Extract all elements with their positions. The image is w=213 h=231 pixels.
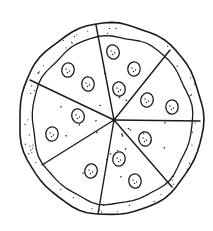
cheese-speck — [126, 100, 128, 102]
pepperoni-dot — [171, 109, 172, 110]
pepperoni-dot — [120, 159, 121, 160]
pepperoni-dot — [116, 157, 117, 158]
cheese-speck — [121, 133, 123, 135]
crust-speck — [38, 72, 39, 73]
pepperoni-outline — [112, 151, 127, 167]
crust-speck — [117, 211, 118, 212]
pepperoni-dot — [69, 70, 70, 71]
crust-speck — [27, 119, 28, 120]
crust-speck — [31, 152, 32, 153]
crust-speck — [29, 145, 30, 146]
crust-speck — [60, 189, 61, 190]
pepperoni-dot — [90, 173, 91, 174]
crust-speck — [33, 145, 34, 146]
crust-speck — [173, 184, 174, 185]
crust-speck — [129, 205, 130, 206]
pepperoni-outline — [127, 61, 140, 76]
pepperoni-outline — [70, 107, 86, 125]
pepperoni-dot — [144, 141, 145, 142]
pepperoni-slice — [166, 100, 179, 115]
pepperoni-outline — [81, 76, 95, 92]
cheese-speck — [65, 135, 67, 137]
pizza-illustration: Hand-drawn line sketch of a whole pizza … — [0, 0, 213, 231]
pepperoni-dot — [169, 105, 170, 106]
crust-speck — [172, 179, 173, 180]
crust-speck — [87, 31, 88, 32]
slice-cut-line — [98, 120, 114, 214]
pepperoni-dot — [136, 181, 137, 182]
pepperoni-dot — [88, 169, 89, 170]
crust-speck — [74, 36, 75, 37]
crust-speck — [32, 147, 33, 148]
pepperoni-dot — [53, 134, 54, 135]
cheese-speck — [99, 105, 101, 107]
crust-speck — [63, 40, 64, 41]
crust-speck — [34, 90, 35, 91]
pepperoni-dot — [134, 183, 135, 184]
pepperoni-dot — [65, 68, 66, 69]
cheese-speck — [120, 176, 122, 178]
pepperoni-outline — [83, 162, 99, 179]
crust-speck — [191, 94, 192, 95]
pepperoni-dot — [67, 72, 68, 73]
pepperoni-slice — [81, 76, 95, 92]
cheese-speck — [164, 122, 166, 124]
pepperoni-dot — [133, 71, 134, 72]
pepperoni-dot — [135, 69, 136, 70]
crust-speck — [29, 134, 30, 135]
crust-speck — [66, 47, 67, 48]
pepperoni-slice — [45, 126, 58, 141]
pepperoni-outline — [45, 126, 58, 141]
cheese-speck — [128, 128, 130, 130]
crust-speck — [24, 124, 25, 125]
cheese-speck — [96, 132, 98, 134]
pepperoni-dot — [92, 171, 93, 172]
cheese-speck — [106, 159, 108, 161]
pepperoni-slice — [83, 162, 99, 179]
pizza-drawing — [0, 0, 213, 231]
crust-speck — [91, 208, 92, 209]
pepperoni-slice — [111, 81, 127, 98]
pepperoni-slice — [112, 151, 127, 167]
cheese-speck — [122, 135, 124, 137]
pepperoni-dot — [116, 87, 117, 88]
crust-speck — [107, 33, 108, 34]
pepperoni-dot — [146, 102, 147, 103]
crust-speck — [190, 77, 191, 78]
crust-speck — [43, 65, 44, 66]
crust-speck — [72, 43, 73, 44]
pepperoni-slice — [61, 62, 75, 78]
pepperoni-outline — [166, 100, 179, 115]
pepperoni-slice — [70, 107, 86, 125]
pepperoni-outline — [105, 43, 122, 61]
pepperoni-dot — [146, 139, 147, 140]
pepperoni-dot — [51, 136, 52, 137]
pepperoni-slice — [127, 61, 140, 76]
pepperoni-slice — [137, 131, 152, 148]
pepperoni-dot — [75, 114, 76, 115]
pepperoni-outline — [128, 173, 142, 189]
crust-speck — [76, 34, 77, 35]
pepperoni-dot — [173, 107, 174, 108]
crust-speck — [189, 163, 190, 164]
crust-speck — [154, 201, 155, 202]
crust-speck — [191, 144, 192, 145]
pepperoni-outline — [61, 62, 75, 78]
pepperoni-outline — [137, 131, 152, 148]
crust-speck — [192, 132, 193, 133]
pepperoni-dot — [132, 179, 133, 180]
pepperoni-dot — [120, 89, 121, 90]
pepperoni-dot — [87, 86, 88, 87]
pepperoni-dot — [79, 116, 80, 117]
crust-speck — [187, 168, 188, 169]
crust-speck — [30, 93, 31, 94]
crust-speck — [147, 194, 148, 195]
cheese-speck — [163, 147, 165, 149]
pepperoni-outline — [139, 91, 155, 108]
slice-cut-line — [114, 120, 200, 121]
crust-speck — [28, 153, 29, 154]
cheese-speck — [143, 132, 145, 134]
crust-speck — [194, 83, 195, 84]
pepperoni-outline — [111, 81, 127, 98]
cheese-speck — [82, 172, 84, 174]
